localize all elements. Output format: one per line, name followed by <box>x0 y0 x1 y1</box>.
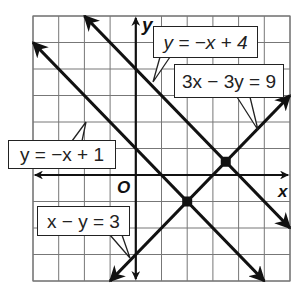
x-axis-label: x <box>278 182 287 202</box>
y-axis-label: y <box>142 14 153 36</box>
label-y-eq-neg-x-plus-4: y = −x + 4 <box>153 26 258 58</box>
label-y-eq-neg-x-plus-1: y = −x + 1 <box>8 140 116 169</box>
label-3x-minus-3y-eq-9: 3x − 3y = 9 <box>174 64 284 98</box>
label-x-minus-y-eq-3: x − y = 3 <box>37 206 130 236</box>
coordinate-graph: y x O y = −x + 4 3x − 3y = 9 y = −x + 1 … <box>0 0 296 286</box>
origin-label: O <box>117 178 130 198</box>
